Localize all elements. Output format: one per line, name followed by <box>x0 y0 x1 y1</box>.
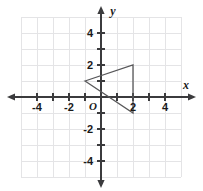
y-tick-label-minus-4: -4 <box>83 155 94 167</box>
origin-label: O <box>89 100 97 112</box>
coordinate-plane-figure: -4 -2 2 4 4 2 -2 -4 O x y <box>0 0 203 191</box>
y-tick-label-4: 4 <box>87 27 94 39</box>
x-tick-label-4: 4 <box>162 101 169 113</box>
y-axis-label: y <box>108 4 116 18</box>
x-axis-label: x <box>182 78 189 92</box>
y-tick-label-2: 2 <box>87 59 93 71</box>
x-tick-label-minus-4: -4 <box>32 101 43 113</box>
x-tick-label-2: 2 <box>130 101 136 113</box>
y-tick-label-minus-2: -2 <box>83 123 93 135</box>
x-tick-label-minus-2: -2 <box>64 101 74 113</box>
coordinate-plane-svg: -4 -2 2 4 4 2 -2 -4 O x y <box>0 0 203 191</box>
